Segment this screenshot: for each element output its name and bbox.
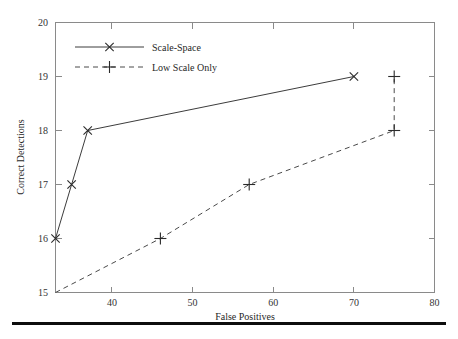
y-tick-label-20: 20: [38, 17, 48, 28]
x-tick-label-70: 70: [349, 297, 359, 308]
line-chart: 15 16 17 18 19 20 40 50 60 70 80: [0, 0, 458, 339]
plus-marker: [104, 61, 116, 73]
x-axis-title: False Positives: [215, 311, 275, 322]
x-tick-label-40: 40: [107, 297, 117, 308]
y-tick-label-17: 17: [38, 179, 48, 190]
page-divider-rule: [12, 322, 446, 325]
y-tick-label-18: 18: [38, 125, 48, 136]
x-tick-label-50: 50: [188, 297, 198, 308]
plus-marker: [388, 71, 400, 83]
plus-marker: [154, 233, 166, 245]
legend-entry-scale-space: Scale-Space: [75, 42, 201, 53]
series-scale-space-line: [56, 77, 354, 239]
series-low-scale-only: [56, 71, 401, 293]
x-marker: [350, 72, 358, 80]
x-tick-label-60: 60: [268, 297, 278, 308]
x-marker: [67, 180, 75, 188]
figure-container: 15 16 17 18 19 20 40 50 60 70 80: [0, 0, 458, 339]
series-scale-space: [51, 72, 358, 242]
y-tick-label-16: 16: [38, 233, 48, 244]
x-axis-tick-labels: 40 50 60 70 80: [107, 297, 440, 308]
x-tick-label-80: 80: [430, 297, 440, 308]
x-marker: [84, 126, 92, 134]
legend-label-low-scale-only: Low Scale Only: [152, 62, 217, 73]
series-low-scale-only-line: [56, 77, 395, 293]
y-tick-label-19: 19: [38, 71, 48, 82]
plus-marker: [243, 179, 255, 191]
plus-marker: [388, 125, 400, 137]
y-axis-title: Correct Detections: [15, 119, 26, 194]
legend-entry-low-scale-only: Low Scale Only: [75, 61, 217, 73]
y-tick-label-15: 15: [38, 287, 48, 298]
legend-label-scale-space: Scale-Space: [152, 42, 201, 53]
plot-frame: [56, 23, 435, 293]
y-axis-ticks: [56, 23, 435, 293]
y-axis-tick-labels: 15 16 17 18 19 20: [38, 17, 48, 298]
chart-legend: Scale-Space Low Scale Only: [75, 42, 217, 73]
